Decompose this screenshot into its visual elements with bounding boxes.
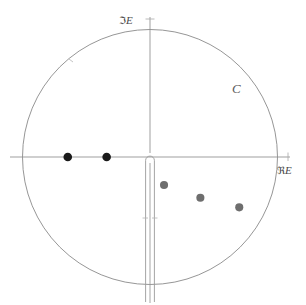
real-axis-label: ℜE	[277, 164, 292, 176]
pole-resonance-1	[160, 181, 168, 189]
imaginary-axis-label: ℑE	[119, 14, 133, 26]
pole-resonance-2	[196, 194, 204, 202]
pole-bound-state-2	[102, 153, 111, 162]
pole-bound-state-1	[63, 153, 72, 162]
real-axis-variable: E	[285, 164, 292, 176]
real-part-symbol: ℜ	[277, 165, 285, 176]
imaginary-part-symbol: ℑ	[119, 15, 126, 26]
complex-plane-figure: ℑE ℜE C	[0, 0, 306, 305]
complex-plane-canvas	[0, 0, 306, 305]
pole-resonance-3	[235, 203, 243, 211]
contour-label-C: C	[232, 81, 241, 97]
imaginary-axis-variable: E	[126, 14, 133, 26]
contour-arc-tick	[69, 59, 73, 62]
